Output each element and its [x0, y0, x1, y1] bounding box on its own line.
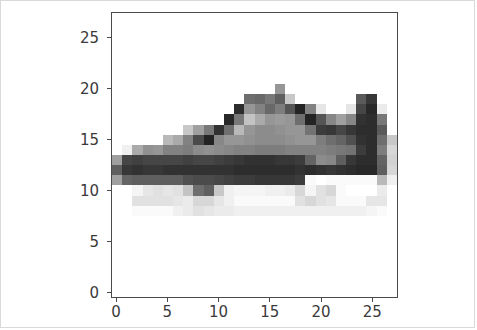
pixel-6-13: [244, 74, 254, 84]
pixel-23-5: [163, 246, 173, 256]
pixel-20-1: [122, 216, 132, 226]
pixel-3-4: [153, 43, 163, 53]
pixel-9-5: [163, 104, 173, 114]
pixel-12-10: [214, 135, 224, 145]
pixel-27-23: [346, 287, 356, 297]
pixel-14-17: [285, 155, 295, 165]
pixel-12-20: [316, 135, 326, 145]
pixel-11-13: [244, 125, 254, 135]
pixel-0-3: [143, 13, 153, 23]
pixel-25-19: [305, 267, 315, 277]
pixel-11-0: [112, 125, 122, 135]
pixel-19-2: [132, 206, 142, 216]
pixel-6-22: [336, 74, 346, 84]
pixel-27-25: [366, 287, 376, 297]
pixel-22-9: [204, 236, 214, 246]
pixel-27-1: [122, 287, 132, 297]
pixel-21-4: [153, 226, 163, 236]
pixel-6-23: [346, 74, 356, 84]
pixel-19-0: [112, 206, 122, 216]
pixel-3-21: [326, 43, 336, 53]
pixel-14-23: [346, 155, 356, 165]
pixel-17-4: [153, 185, 163, 195]
pixel-4-13: [244, 54, 254, 64]
pixel-15-2: [132, 165, 142, 175]
pixel-0-4: [153, 13, 163, 23]
pixel-15-21: [326, 165, 336, 175]
pixel-14-3: [143, 155, 153, 165]
pixel-27-27: [387, 287, 397, 297]
pixel-27-7: [183, 287, 193, 297]
pixel-24-19: [305, 256, 315, 266]
pixel-13-2: [132, 145, 142, 155]
pixel-7-25: [366, 84, 376, 94]
y-tick-mark: [107, 88, 111, 89]
pixel-26-26: [377, 277, 387, 287]
pixel-2-18: [295, 33, 305, 43]
pixel-26-4: [153, 277, 163, 287]
pixel-25-20: [316, 267, 326, 277]
pixel-25-16: [275, 267, 285, 277]
pixel-2-15: [265, 33, 275, 43]
pixel-23-10: [214, 246, 224, 256]
pixel-3-26: [377, 43, 387, 53]
pixel-25-27: [387, 267, 397, 277]
pixel-7-11: [224, 84, 234, 94]
pixel-12-0: [112, 135, 122, 145]
pixel-6-19: [305, 74, 315, 84]
pixel-2-19: [305, 33, 315, 43]
y-tick-mark: [107, 139, 111, 140]
pixel-18-15: [265, 196, 275, 206]
pixel-9-6: [173, 104, 183, 114]
pixel-15-23: [346, 165, 356, 175]
pixel-16-16: [275, 175, 285, 185]
pixel-18-11: [224, 196, 234, 206]
pixel-8-27: [387, 94, 397, 104]
pixel-19-26: [377, 206, 387, 216]
pixel-1-18: [295, 23, 305, 33]
pixel-1-20: [316, 23, 326, 33]
pixel-9-20: [316, 104, 326, 114]
pixel-5-12: [234, 64, 244, 74]
pixel-16-11: [224, 175, 234, 185]
pixel-10-20: [316, 114, 326, 124]
pixel-11-24: [356, 125, 366, 135]
pixel-4-19: [305, 54, 315, 64]
pixel-3-12: [234, 43, 244, 53]
pixel-23-4: [153, 246, 163, 256]
pixel-27-15: [265, 287, 275, 297]
pixel-8-4: [153, 94, 163, 104]
pixel-24-24: [356, 256, 366, 266]
pixel-12-3: [143, 135, 153, 145]
pixel-3-8: [193, 43, 203, 53]
pixel-15-6: [173, 165, 183, 175]
pixel-25-10: [214, 267, 224, 277]
pixel-6-25: [366, 74, 376, 84]
pixel-20-4: [153, 216, 163, 226]
pixel-23-23: [346, 246, 356, 256]
pixel-24-3: [143, 256, 153, 266]
pixel-23-9: [204, 246, 214, 256]
pixel-3-15: [265, 43, 275, 53]
pixel-14-1: [122, 155, 132, 165]
pixel-21-25: [366, 226, 376, 236]
pixel-5-24: [356, 64, 366, 74]
pixel-17-2: [132, 185, 142, 195]
pixel-25-8: [193, 267, 203, 277]
pixel-7-16: [275, 84, 285, 94]
pixel-6-17: [285, 74, 295, 84]
x-tick-label: 0: [111, 304, 121, 321]
pixel-22-15: [265, 236, 275, 246]
pixel-2-27: [387, 33, 397, 43]
pixel-25-13: [244, 267, 254, 277]
pixel-0-26: [377, 13, 387, 23]
pixel-9-3: [143, 104, 153, 114]
pixel-15-25: [366, 165, 376, 175]
pixel-0-23: [346, 13, 356, 23]
pixel-17-13: [244, 185, 254, 195]
pixel-9-10: [214, 104, 224, 114]
pixel-8-22: [336, 94, 346, 104]
pixel-16-21: [326, 175, 336, 185]
x-tick-mark: [321, 298, 322, 302]
pixel-0-15: [265, 13, 275, 23]
